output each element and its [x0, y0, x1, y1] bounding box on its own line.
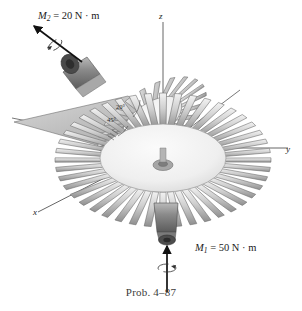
- moment-label-M2: M2 = 20 N · m: [38, 11, 99, 22]
- m1-equals: =: [210, 242, 216, 253]
- axis-label-x: x: [33, 208, 37, 217]
- inclined-shaft: [57, 51, 106, 97]
- m1-subscript: 1: [204, 246, 208, 255]
- axis-label-z: z: [159, 12, 163, 21]
- m2-unit: N · m: [75, 10, 100, 21]
- m1-value: 50: [219, 242, 230, 253]
- m2-rotation-indicator: [46, 37, 64, 53]
- figure-caption: Prob. 4–87: [0, 286, 302, 298]
- center-hub-bore: [159, 162, 168, 167]
- angle-label-45: 45°: [107, 117, 116, 124]
- m1-unit: N · m: [232, 242, 257, 253]
- m2-subscript: 2: [47, 14, 51, 23]
- angle-label-20: 20°: [116, 104, 125, 111]
- m2-symbol: M: [38, 10, 47, 21]
- problem-figure: M2 = 20 N · m M1 = 50 N · m z y x 20° 45…: [0, 0, 302, 311]
- bottom-shaft: [154, 203, 178, 245]
- m2-value: 20: [62, 10, 73, 21]
- m1-symbol: M: [195, 242, 204, 253]
- moment-label-M1: M1 = 50 N · m: [195, 243, 256, 254]
- axis-label-y: y: [286, 145, 290, 154]
- figure-illustration: [0, 0, 302, 311]
- hub-stub: [160, 148, 166, 162]
- moment-arrow-M2: [34, 26, 82, 62]
- m2-equals: =: [53, 10, 59, 21]
